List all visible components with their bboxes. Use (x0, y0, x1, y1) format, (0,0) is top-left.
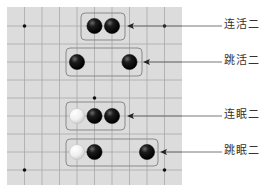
black-stone (122, 54, 137, 69)
label-tiao-mian-er: 跳眠二 (224, 145, 260, 157)
star-point (23, 168, 27, 172)
black-stone (87, 144, 102, 159)
label-lian-mian-er: 连眠二 (224, 109, 260, 121)
star-point (93, 96, 97, 100)
black-stone (87, 108, 102, 123)
black-stone (104, 108, 119, 123)
star-point (163, 168, 167, 172)
black-stone (104, 18, 119, 33)
label-lian-huo-er: 连活二 (224, 19, 260, 31)
black-stone (69, 54, 84, 69)
black-stone (87, 18, 102, 33)
white-stone (69, 108, 84, 123)
star-point (23, 24, 27, 28)
label-tiao-huo-er: 跳活二 (224, 55, 260, 67)
white-stone (69, 144, 84, 159)
black-stone (139, 144, 154, 159)
